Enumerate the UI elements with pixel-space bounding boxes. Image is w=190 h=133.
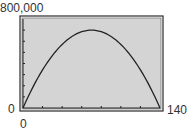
plot-area (22, 18, 161, 109)
graphing-calculator-window (0, 0, 190, 133)
